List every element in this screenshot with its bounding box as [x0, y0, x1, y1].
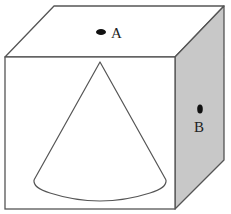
diagram-canvas: A B: [0, 0, 231, 214]
point-b-label: B: [194, 119, 204, 135]
point-a-label: A: [111, 25, 122, 41]
cube-cone-diagram: A B: [0, 0, 231, 214]
point-b-dot: [197, 105, 203, 114]
point-a-dot: [96, 29, 106, 35]
